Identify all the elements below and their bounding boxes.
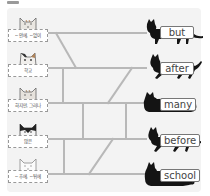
right-item-4[interactable]: before [141,126,205,152]
right-word-3: many [160,98,196,111]
right-item-2[interactable]: after [141,54,205,80]
right-word-2: after [160,62,194,75]
right-word-5: school [160,169,200,182]
right-word-1: but [160,26,194,39]
right-item-5[interactable]: school [141,161,205,187]
right-item-3[interactable]: many [141,90,205,116]
left-label-5: ~후에, ~뒤에 [8,170,48,183]
left-label-2: 학교 [8,64,48,77]
right-word-4: before [160,134,200,147]
left-label-1: ~안에, ~없이 [8,29,48,42]
right-item-1[interactable]: but [141,18,205,44]
left-label-3: 하지만, 그러나 [8,99,48,112]
left-label-4: 많은 [8,135,48,148]
